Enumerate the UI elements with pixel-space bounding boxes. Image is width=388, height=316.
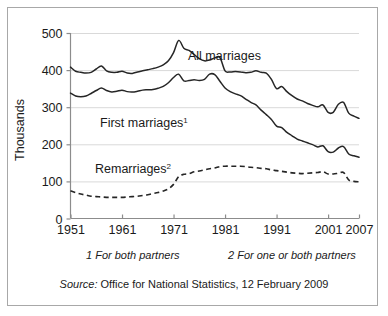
y-tick-label-300: 300: [42, 101, 63, 115]
y-axis-title: Thousands: [13, 99, 27, 161]
all-marriages-label: All marriages: [188, 49, 261, 63]
x-tick-label-1961: 1961: [109, 223, 137, 237]
y-tick-label-200: 200: [42, 138, 63, 152]
x-tick-label-1951: 1951: [57, 223, 85, 237]
y-tick-labels-group: 0100200300400500: [42, 27, 63, 227]
first-marriages-label-text: First marriages: [100, 116, 183, 130]
x-tick-label-2001: 2001: [315, 223, 343, 237]
footnote-one: 1 For both partners: [86, 249, 180, 261]
remarriages-label: Remarriages2: [95, 162, 172, 176]
source-lead: Source:: [60, 278, 98, 290]
x-tick-label-2007: 2007: [346, 223, 374, 237]
first-marriages-superscript: 1: [183, 116, 188, 125]
marriages-line-chart: 0100200300400500 19511961197119811991200…: [0, 0, 388, 316]
footnote-two: 2 For one or both partners: [227, 249, 356, 261]
x-tick-label-1971: 1971: [160, 223, 188, 237]
x-tick-labels-group: 1951196119711981199120012007: [57, 223, 373, 237]
source-line: Source: Office for National Statistics, …: [60, 278, 329, 290]
y-tick-label-400: 400: [42, 64, 63, 78]
source-text: Office for National Statistics, 12 Febru…: [98, 278, 329, 290]
remarriages-label-text: Remarriages: [95, 162, 167, 176]
x-tick-label-1991: 1991: [263, 223, 291, 237]
chart-figure: 0100200300400500 19511961197119811991200…: [0, 0, 388, 316]
x-tick-label-1981: 1981: [212, 223, 240, 237]
first-marriages-label: First marriages1: [100, 116, 188, 130]
y-tick-label-500: 500: [42, 27, 63, 41]
remarriages-superscript: 2: [167, 162, 172, 171]
y-tick-label-100: 100: [42, 175, 63, 189]
